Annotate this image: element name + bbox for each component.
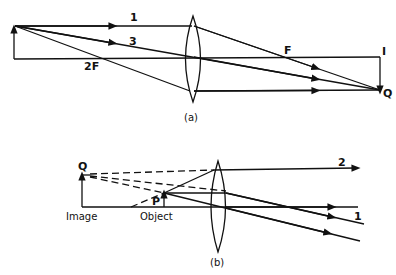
ray-1-a-refracted-arrow — [194, 26, 316, 68]
figure-a: 1 3 2F F I Q (a) — [14, 11, 392, 123]
convex-lens-a — [186, 16, 201, 102]
ray-1-label-b: 1 — [354, 210, 362, 223]
object-tip-label-b: P — [152, 195, 160, 208]
ray-3-a-arrow2 — [194, 57, 316, 79]
virtual-ray-center-b — [90, 177, 164, 193]
image-tip-label-a: Q — [383, 87, 392, 100]
lens-ray-diagram: 1 3 2F F I Q (a) Q P Image — [0, 0, 396, 275]
ray-2-b-refracted — [214, 168, 356, 170]
image-tip-label-b: Q — [78, 160, 87, 173]
image-label-a: I — [382, 45, 386, 58]
ray-2-a-arrow — [194, 91, 316, 92]
ray-center-b-arrow — [226, 208, 328, 233]
caption-b: (b) — [210, 257, 224, 268]
ray-3-a-arrow — [15, 26, 113, 43]
ray-parallel-b-arrow — [226, 193, 332, 217]
figure-b: Q P Image Object 2 1 (b) — [66, 156, 364, 268]
image-label-b: Image — [66, 211, 97, 222]
caption-a: (a) — [184, 112, 198, 123]
virtual-ray-parallel-b — [90, 176, 226, 191]
ray-1-label-a: 1 — [130, 11, 138, 24]
ray-2-label-b: 2 — [338, 156, 346, 169]
two-f-label: 2F — [84, 60, 99, 73]
ray-2-b-incident — [164, 170, 214, 193]
object-label-b: Object — [140, 211, 173, 222]
virtual-ray-2-b — [90, 170, 214, 174]
ray-3-label-a: 3 — [129, 35, 137, 48]
focus-label: F — [284, 44, 292, 57]
